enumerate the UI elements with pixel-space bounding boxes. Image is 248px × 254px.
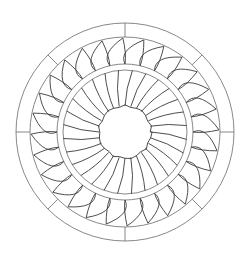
center-circle — [99, 105, 153, 159]
flame-petals — [31, 38, 219, 226]
mandala-artwork — [0, 0, 248, 254]
inner-rays — [63, 70, 186, 193]
